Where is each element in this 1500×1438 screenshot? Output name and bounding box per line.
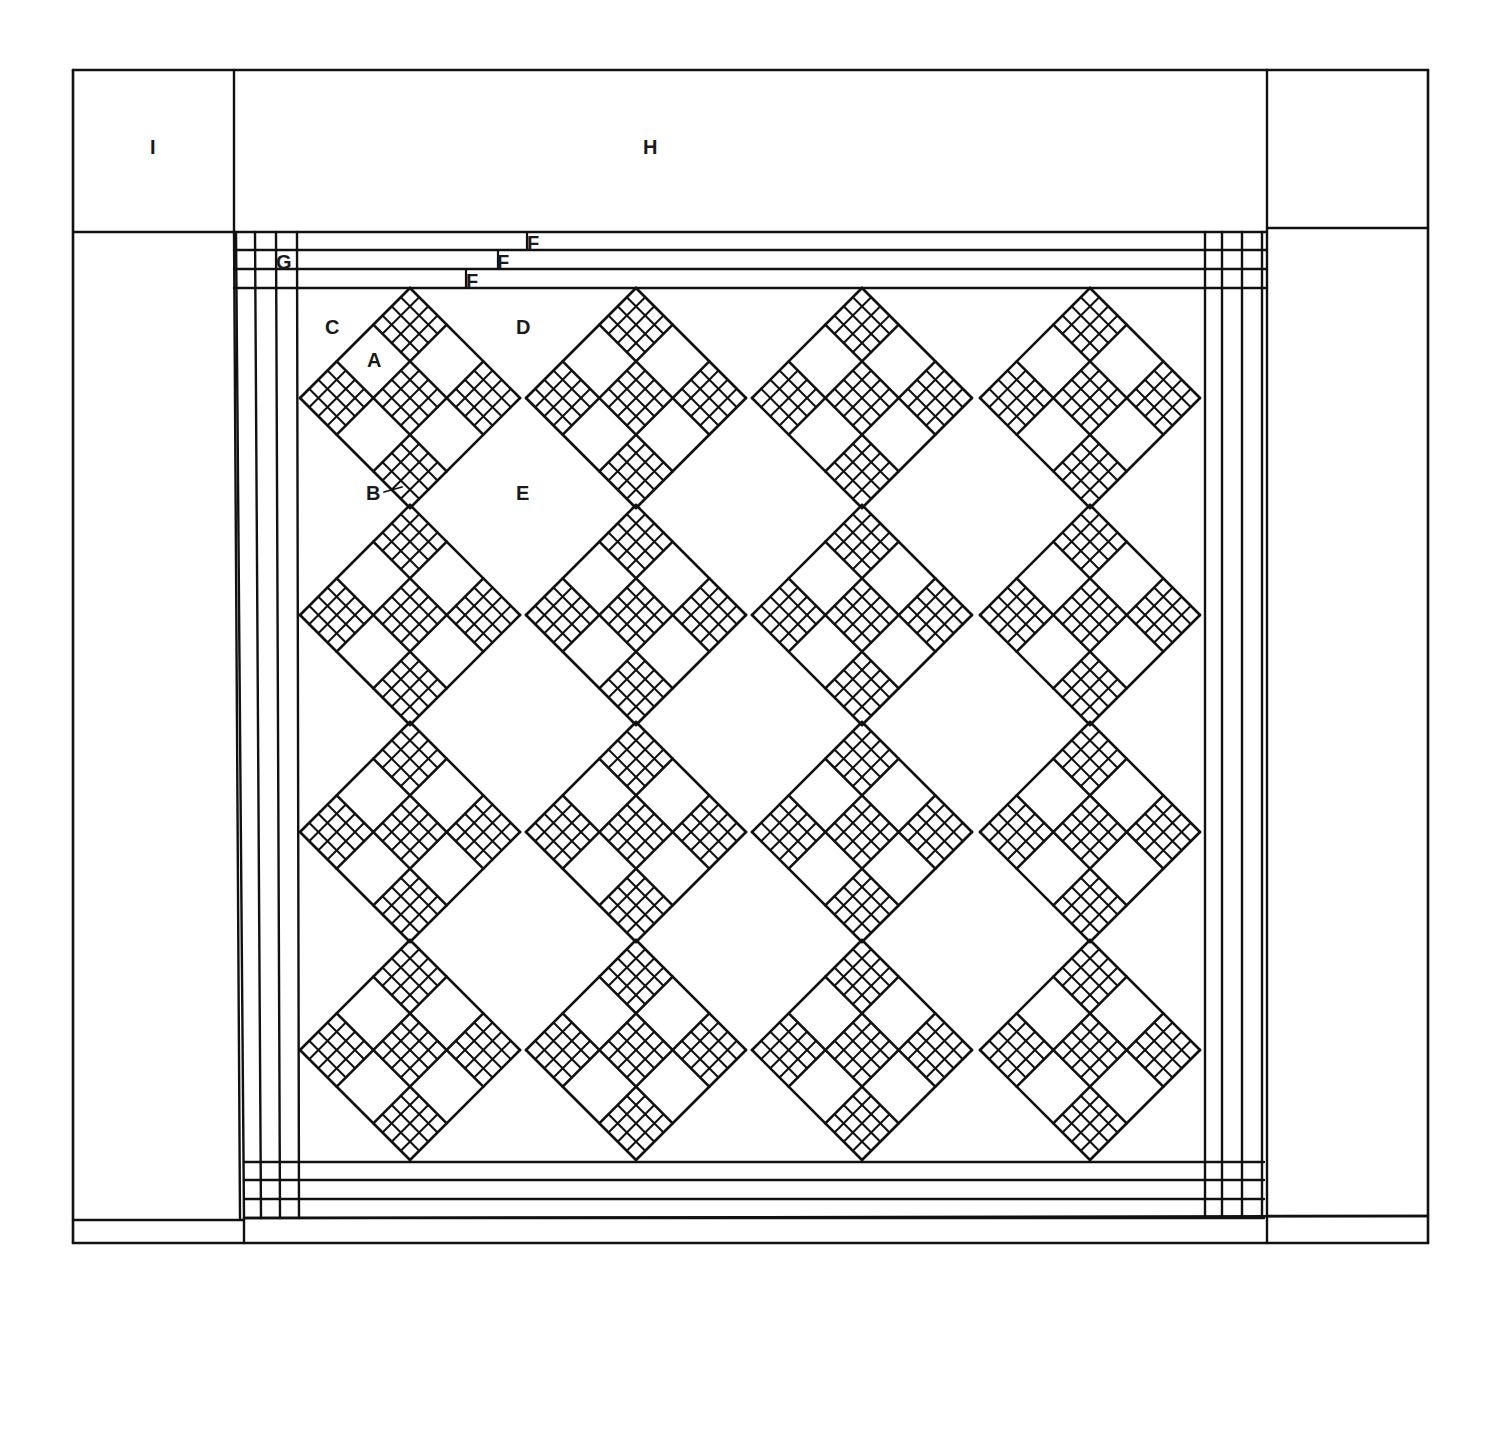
nine-patch-block	[980, 288, 1200, 508]
label-f-middle: F	[497, 251, 509, 273]
piece-labels: I H G F F F C D A B E	[150, 136, 657, 504]
nine-patch-block	[752, 722, 972, 942]
label-e: E	[516, 482, 529, 504]
quilt-frame	[73, 70, 1428, 1243]
label-g: G	[276, 251, 292, 273]
label-a: A	[367, 349, 381, 371]
nine-patch-block	[980, 940, 1200, 1160]
nine-patch-block	[300, 505, 520, 725]
nine-patch-block	[300, 940, 520, 1160]
nine-patch-block	[300, 722, 520, 942]
inner-strip-left-line	[255, 232, 261, 1218]
nine-patch-block	[980, 505, 1200, 725]
nine-patch-block	[752, 940, 972, 1160]
label-f-bottom: F	[466, 270, 478, 292]
nine-patch-block	[752, 288, 972, 508]
nine-patch-block	[752, 505, 972, 725]
nine-patch-block	[526, 722, 746, 942]
nine-patch-block	[526, 505, 746, 725]
label-c: C	[325, 316, 339, 338]
label-b: B	[366, 482, 380, 504]
label-i: I	[150, 136, 156, 158]
nine-patch-block	[980, 722, 1200, 942]
inner-strip-left-line	[297, 232, 299, 1218]
quilt-diagram: I H G F F F C D A B E	[0, 0, 1500, 1438]
nine-patch-block	[526, 940, 746, 1160]
label-d: D	[516, 316, 530, 338]
label-h: H	[643, 136, 657, 158]
nine-patch-block	[526, 288, 746, 508]
label-f-top: F	[527, 232, 539, 254]
inner-strip-left-line	[276, 232, 280, 1218]
nine-patch-blocks	[300, 288, 1200, 1160]
